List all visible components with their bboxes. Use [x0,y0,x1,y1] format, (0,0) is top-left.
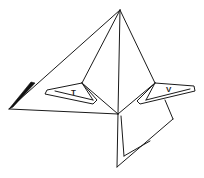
lower-fold [117,100,173,167]
label-v: V [166,85,172,94]
shaded-edge [9,82,35,109]
folded-pyramid-diagram: T V [0,0,204,178]
label-t: T [71,88,76,97]
center-spine [118,10,120,114]
